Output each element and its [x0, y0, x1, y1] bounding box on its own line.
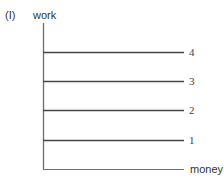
line-label-2: 2 [189, 105, 195, 116]
indifference-diagram: (I) work 4 3 2 1 money [0, 0, 224, 186]
diagram-lines [0, 0, 224, 186]
x-axis-label: money [190, 164, 223, 175]
line-label-1: 1 [189, 135, 195, 146]
line-label-4: 4 [189, 47, 195, 58]
line-label-3: 3 [189, 76, 195, 87]
